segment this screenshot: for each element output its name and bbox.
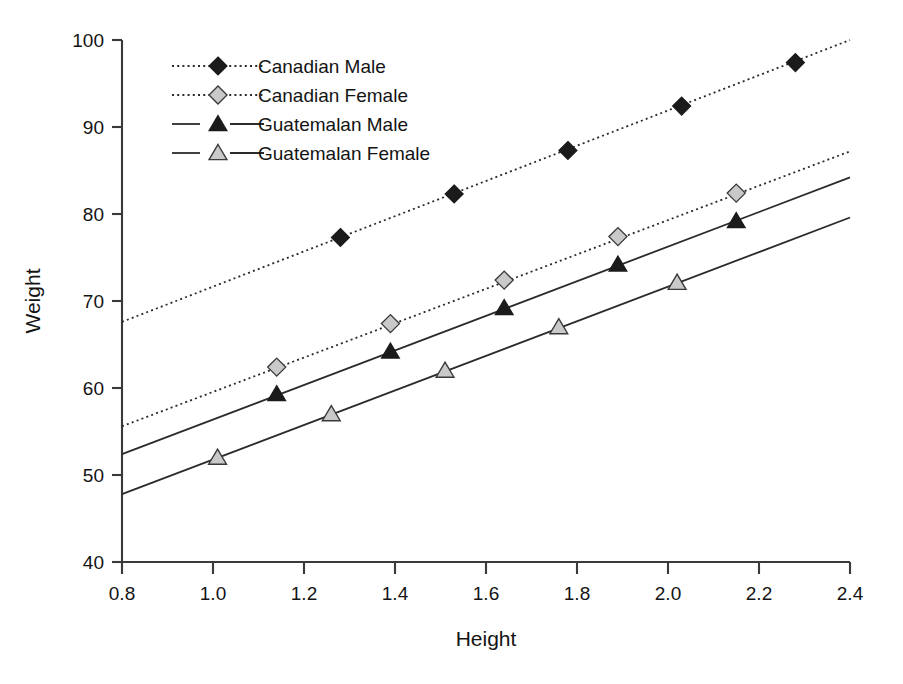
weight-vs-height-line-chart: 405060708090100 Weight 0.81.01.21.41.61.…: [0, 0, 903, 684]
x-tick-label: 1.6: [473, 583, 499, 604]
chart-figure: 405060708090100 Weight 0.81.01.21.41.61.…: [0, 0, 903, 684]
chart-background: [0, 0, 903, 684]
legend-label: Canadian Male: [258, 56, 386, 77]
x-tick-label: 1.0: [200, 583, 226, 604]
x-tick-label: 0.8: [109, 583, 135, 604]
x-axis-title: Height: [456, 627, 517, 650]
x-tick-label: 2.4: [837, 583, 864, 604]
y-tick-label: 50: [83, 465, 104, 486]
y-tick-label: 70: [83, 291, 104, 312]
x-axis-tick-labels: 0.81.01.21.41.61.82.02.22.4: [109, 583, 864, 604]
y-tick-label: 100: [72, 30, 104, 51]
y-axis-title: Weight: [21, 268, 44, 333]
y-tick-label: 40: [83, 552, 104, 573]
y-tick-label: 60: [83, 378, 104, 399]
y-tick-label: 90: [83, 117, 104, 138]
legend-label: Canadian Female: [258, 85, 408, 106]
x-tick-label: 2.0: [655, 583, 681, 604]
legend-label: Guatemalan Male: [258, 114, 408, 135]
x-tick-label: 1.8: [564, 583, 590, 604]
legend-label: Guatemalan Female: [258, 143, 430, 164]
x-tick-label: 1.4: [382, 583, 409, 604]
x-tick-label: 2.2: [746, 583, 772, 604]
y-tick-label: 80: [83, 204, 104, 225]
x-tick-label: 1.2: [291, 583, 317, 604]
